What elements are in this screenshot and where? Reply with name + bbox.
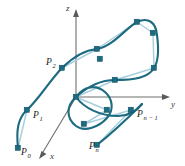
control-point[interactable] [15, 145, 20, 150]
control-point[interactable] [59, 65, 64, 70]
y-axis-arrowhead [162, 94, 170, 100]
z-axis-arrowhead [73, 9, 79, 17]
control-point[interactable] [104, 107, 109, 112]
control-point[interactable] [94, 46, 99, 51]
control-point[interactable] [73, 94, 78, 99]
spline-figure: z y x P 0 P 1 P 2 P n − 1 P n [0, 0, 185, 166]
point-label-p2-sub: 2 [53, 62, 57, 69]
point-label-pn-1: P n − 1 [136, 109, 158, 121]
point-label-p0-sub: 0 [28, 152, 32, 159]
control-point[interactable] [97, 56, 102, 61]
point-label-p1: P 1 [32, 110, 43, 122]
x-axis-label: x [49, 151, 54, 161]
point-label-pn-sub: n [96, 146, 99, 153]
x-axis-line [43, 97, 76, 152]
point-label-p2: P 2 [45, 57, 57, 69]
y-axis-label: y [170, 99, 175, 109]
point-label-p0-base: P [20, 147, 27, 157]
point-label-pn-base: P [88, 141, 95, 151]
spline-segment-end [97, 104, 142, 145]
x-axis-arrowhead [39, 151, 46, 159]
point-label-p1-sub: 1 [40, 115, 43, 122]
control-point[interactable] [112, 77, 117, 82]
point-label-pn-1-base: P [136, 109, 143, 119]
control-point[interactable] [81, 121, 86, 126]
control-point[interactable] [24, 107, 29, 112]
control-point[interactable] [134, 19, 139, 24]
point-label-p1-base: P [32, 110, 39, 120]
point-label-pn-1-sub: n − 1 [144, 114, 158, 121]
z-axis-label: z [65, 3, 70, 13]
control-points-group [15, 19, 156, 150]
point-label-p0: P 0 [20, 147, 32, 159]
control-point[interactable] [150, 30, 155, 35]
figure-canvas: z y x P 0 P 1 P 2 P n − 1 P n [0, 0, 185, 166]
spline-curve-group [17, 20, 158, 148]
point-label-p2-base: P [45, 57, 52, 67]
control-point[interactable] [151, 65, 156, 70]
control-point[interactable] [128, 107, 133, 112]
